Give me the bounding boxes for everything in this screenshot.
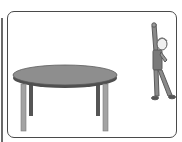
illustration-scene <box>0 0 182 142</box>
person-shoe-right <box>169 95 176 99</box>
round-table <box>13 65 117 131</box>
table-leg-back-right <box>96 82 100 116</box>
person-hand <box>152 23 156 27</box>
table-leg-front-left <box>21 84 26 131</box>
table-leg-front-right <box>103 84 108 131</box>
person-leg-right <box>158 70 172 96</box>
person-leg-left <box>154 70 159 96</box>
person-shoe-left <box>152 96 159 100</box>
person <box>152 23 176 100</box>
person-raised-arm <box>152 24 158 52</box>
table-top <box>13 65 117 85</box>
table-leg-back-left <box>29 82 33 116</box>
